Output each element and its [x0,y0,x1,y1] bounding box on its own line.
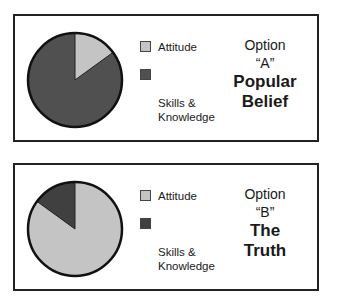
swatch-skills [140,218,151,229]
swatch-skills [140,69,151,80]
option-title-line1: Popular [215,72,315,92]
option-title-line2: Truth [215,241,315,261]
option-letter: “A” [215,54,315,72]
legend: Attitude Skills & Knowledge [140,40,215,138]
legend-item-attitude: Attitude [140,189,215,203]
option-title-line2: Belief [215,92,315,112]
panel-option-b: Attitude Skills & Knowledge Option “B” T… [13,163,319,291]
option-title-line1: The [215,221,315,241]
option-label: Option [215,185,315,203]
legend-label: Skills & Knowledge [158,246,215,272]
swatch-attitude [140,41,151,52]
legend-label: Attitude [158,41,197,53]
pie-chart-option-a [25,30,125,130]
option-caption: Option “B” The Truth [215,185,315,261]
panel-option-a: Attitude Skills & Knowledge Option “A” P… [13,14,319,142]
legend-label: Skills & Knowledge [158,97,215,123]
legend-item-skills: Skills & Knowledge [140,68,215,124]
legend: Attitude Skills & Knowledge [140,189,215,287]
legend-label: Attitude [158,190,197,202]
swatch-attitude [140,190,151,201]
option-caption: Option “A” Popular Belief [215,36,315,112]
legend-item-skills: Skills & Knowledge [140,217,215,273]
pie-chart-option-b [25,179,125,279]
legend-item-attitude: Attitude [140,40,215,54]
option-letter: “B” [215,203,315,221]
option-label: Option [215,36,315,54]
